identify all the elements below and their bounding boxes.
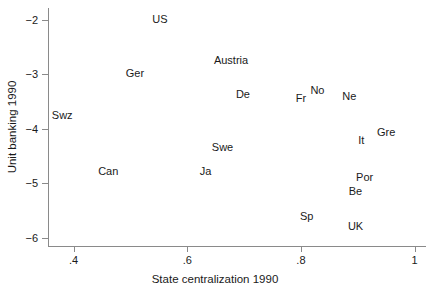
y-axis-tick <box>42 20 48 21</box>
y-axis-tick <box>42 238 48 239</box>
data-point-label: Ger <box>126 68 144 79</box>
x-axis-tick <box>74 246 75 252</box>
data-point-label: Gre <box>377 127 395 138</box>
x-axis-tick <box>301 246 302 252</box>
plot-area: USAustriaGerDeNoFrNeSwzGreItSweCanJaPorB… <box>48 8 426 246</box>
y-axis-title: Unit banking 1990 <box>6 52 18 202</box>
scatter-chart: USAustriaGerDeNoFrNeSwzGreItSweCanJaPorB… <box>0 0 430 297</box>
data-point-label: Swe <box>212 141 233 152</box>
y-axis-line <box>48 8 49 246</box>
y-axis-tick-label: −6 <box>25 232 38 243</box>
data-point-label: Fr <box>296 92 306 103</box>
x-axis-tick-label: 1 <box>412 255 418 266</box>
data-point-label: UK <box>348 220 363 231</box>
y-axis-tick <box>42 183 48 184</box>
x-axis-tick-label: .8 <box>296 255 305 266</box>
y-axis-tick-label: −4 <box>25 123 38 134</box>
x-axis-title: State centralization 1990 <box>0 273 430 285</box>
y-axis-tick <box>42 129 48 130</box>
data-point-label: Ja <box>200 165 212 176</box>
data-point-label: US <box>152 13 167 24</box>
y-axis-tick <box>42 74 48 75</box>
data-point-label: Ne <box>342 90 356 101</box>
y-axis-tick-label: −2 <box>25 14 38 25</box>
y-axis-tick-label: −5 <box>25 178 38 189</box>
data-point-label: Be <box>349 185 362 196</box>
data-point-label: Austria <box>214 54 248 65</box>
x-axis-tick <box>415 246 416 252</box>
x-axis-line <box>48 246 426 247</box>
data-point-label: It <box>358 135 364 146</box>
y-axis-tick-label: −3 <box>25 69 38 80</box>
data-point-label: Sp <box>300 211 313 222</box>
data-point-label: No <box>310 84 324 95</box>
data-point-label: Por <box>356 172 373 183</box>
data-point-label: Can <box>98 165 118 176</box>
x-axis-tick <box>187 246 188 252</box>
data-point-label: De <box>236 88 250 99</box>
x-axis-tick-label: .4 <box>69 255 78 266</box>
x-axis-tick-label: .6 <box>183 255 192 266</box>
data-point-label: Swz <box>52 109 73 120</box>
